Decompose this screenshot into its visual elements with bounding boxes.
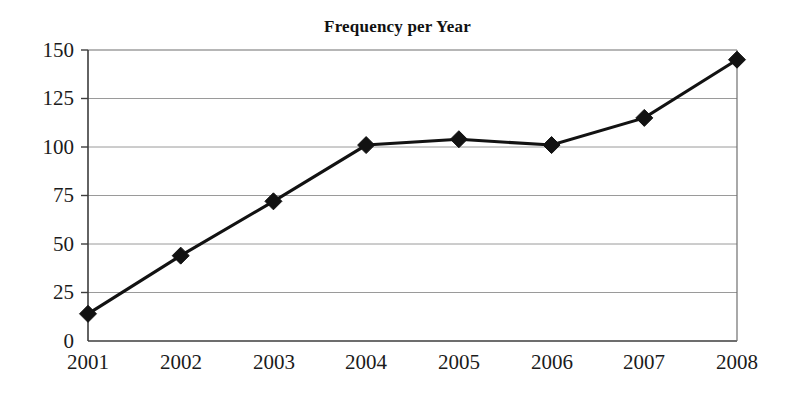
y-axis-label-150: 150 (18, 40, 74, 61)
y-axis-label-0: 0 (18, 331, 74, 352)
y-axis-label-100: 100 (18, 137, 74, 158)
y-axis-label-25: 25 (18, 282, 74, 303)
data-series-line (88, 60, 737, 314)
data-point-marker (80, 305, 97, 322)
data-point-marker (172, 247, 189, 264)
data-point-marker (450, 131, 467, 148)
data-point-marker (729, 51, 746, 68)
y-axis-label-125: 125 (18, 88, 74, 109)
x-axis-label-2002: 2002 (135, 352, 227, 373)
x-axis-label-2006: 2006 (506, 352, 598, 373)
data-point-marker (358, 137, 375, 154)
line-chart-figure: Frequency per Year 150 125 (0, 0, 795, 401)
x-axis-label-2004: 2004 (320, 352, 412, 373)
y-axis-label-50: 50 (18, 234, 74, 255)
x-axis-label-2007: 2007 (598, 352, 690, 373)
y-axis-label-75: 75 (18, 185, 74, 206)
x-axis-label-2003: 2003 (228, 352, 320, 373)
x-axis-label-2005: 2005 (413, 352, 505, 373)
data-series-markers (80, 51, 746, 322)
chart-plot-area (0, 0, 795, 401)
x-axis-label-2001: 2001 (42, 352, 134, 373)
data-point-marker (636, 109, 653, 126)
x-axis-label-2008: 2008 (691, 352, 783, 373)
data-point-marker (543, 137, 560, 154)
